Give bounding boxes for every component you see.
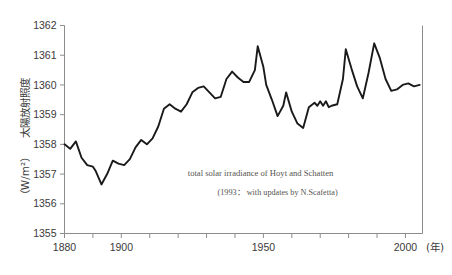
annotation-update: (1993： with updates by N.Scafetta) bbox=[218, 188, 338, 197]
y-axis-title-text: 太陽放射照度 bbox=[19, 77, 31, 138]
x-tick-label: 1950 bbox=[252, 241, 276, 253]
y-tick-label: 1359 bbox=[33, 108, 57, 120]
y-tick-label: 1358 bbox=[33, 138, 57, 150]
y-tick-label: 1357 bbox=[33, 168, 57, 180]
y-tick-label: 1362 bbox=[33, 19, 57, 31]
x-axis-title: (年) bbox=[426, 241, 444, 253]
annotation-source: total solar irradiance of Hoyt and Schat… bbox=[188, 168, 334, 178]
y-tick-label: 1355 bbox=[33, 227, 57, 239]
y-tick-label: 1360 bbox=[33, 79, 57, 91]
y-tick-label: 1356 bbox=[33, 197, 57, 209]
y-axis-title: 太陽放射照度 （W/m²） bbox=[19, 77, 31, 200]
y-tick-label: 1361 bbox=[33, 49, 57, 61]
x-tick-label: 2000 bbox=[394, 241, 418, 253]
solar-irradiance-chart: 13551356135713581359136013611362 1880190… bbox=[0, 0, 452, 275]
chart-canvas: 13551356135713581359136013611362 1880190… bbox=[0, 0, 452, 275]
x-tick-label: 1900 bbox=[110, 241, 134, 253]
y-axis-unit-text: （W/m²） bbox=[19, 152, 31, 200]
x-tick-label: 1880 bbox=[53, 241, 77, 253]
